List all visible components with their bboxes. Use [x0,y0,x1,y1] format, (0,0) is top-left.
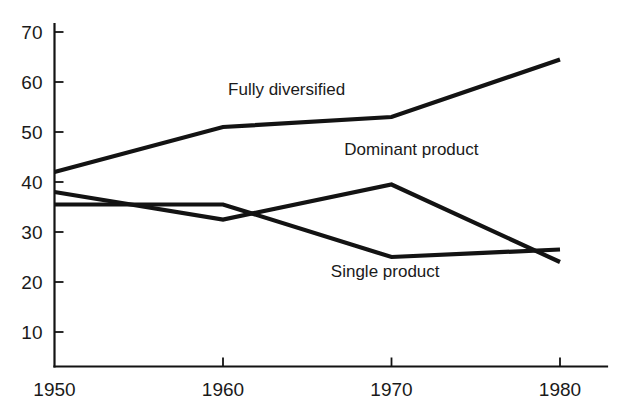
series-line-fully-diversified [55,60,561,173]
y-tick-label: 30 [21,222,42,243]
x-axis-tick-labels: 1950196019701980 [33,379,581,400]
chart-canvas: 10203040506070 1950196019701980 Fully di… [0,0,619,413]
y-axis-ticks [55,32,64,332]
x-tick-label: 1970 [370,379,412,400]
x-tick-label: 1960 [202,379,244,400]
y-tick-label: 50 [21,122,42,143]
series-label-group: Fully diversifiedDominant productSingle … [228,80,479,282]
y-axis-tick-labels: 10203040506070 [21,22,42,343]
x-tick-label: 1980 [539,379,581,400]
x-axis-ticks [223,358,560,367]
y-tick-label: 20 [21,272,42,293]
y-tick-label: 60 [21,72,42,93]
series-label-fully-diversified: Fully diversified [228,80,345,99]
series-line-single-product [55,205,561,258]
x-tick-label: 1950 [33,379,75,400]
y-tick-label: 70 [21,22,42,43]
y-tick-label: 40 [21,172,42,193]
series-label-dominant-product: Dominant product [344,140,478,159]
y-tick-label: 10 [21,322,42,343]
line-chart-figure: 10203040506070 1950196019701980 Fully di… [0,0,619,413]
series-line-dominant-product [55,185,561,263]
series-label-single-product: Single product [331,262,440,281]
